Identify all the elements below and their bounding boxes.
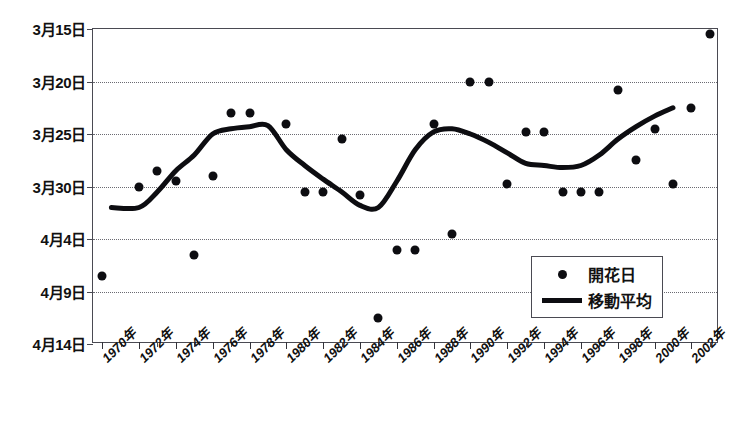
data-point <box>503 180 512 189</box>
data-point <box>135 182 144 191</box>
data-point <box>540 127 549 136</box>
data-point <box>153 166 162 175</box>
data-point <box>521 127 530 136</box>
data-point <box>484 77 493 86</box>
y-axis-tick-label: 4月14日 <box>0 333 86 354</box>
sakura-bloom-chart: 3月15日3月20日3月25日3月30日4月4日4月9日4月14日 開花日 移動… <box>0 0 734 432</box>
data-point <box>705 30 714 39</box>
data-point <box>650 124 659 133</box>
data-point <box>466 77 475 86</box>
legend-item-bloom-date: 開花日 <box>540 261 652 287</box>
data-point <box>208 172 217 181</box>
data-point <box>558 187 567 196</box>
data-point <box>668 180 677 189</box>
data-point <box>392 245 401 254</box>
legend-label-bloom-date: 開花日 <box>584 262 636 286</box>
data-point <box>374 313 383 322</box>
y-axis-tick-label: 3月30日 <box>0 175 86 196</box>
bloom-dot-icon <box>540 270 584 279</box>
y-axis-tick-label: 3月25日 <box>0 123 86 144</box>
data-point <box>282 119 291 128</box>
legend-label-moving-average: 移動平均 <box>584 288 652 312</box>
data-point <box>337 135 346 144</box>
data-point <box>98 271 107 280</box>
data-point <box>300 187 309 196</box>
y-axis-tick-label: 4月9日 <box>0 280 86 301</box>
data-point <box>576 187 585 196</box>
data-point <box>171 177 180 186</box>
plot-area: 開花日 移動平均 <box>92 28 718 343</box>
data-point <box>613 85 622 94</box>
legend-item-moving-average: 移動平均 <box>540 287 652 313</box>
y-axis-tick-label: 3月20日 <box>0 70 86 91</box>
line-swatch-icon <box>540 298 584 303</box>
moving-average-path <box>111 108 673 210</box>
data-point <box>687 103 696 112</box>
data-point <box>190 250 199 259</box>
data-point <box>429 119 438 128</box>
y-axis-tick-label: 4月4日 <box>0 228 86 249</box>
data-point <box>448 229 457 238</box>
data-point <box>595 187 604 196</box>
data-point <box>227 109 236 118</box>
data-point <box>411 245 420 254</box>
data-point <box>245 109 254 118</box>
y-axis-tick-label: 3月15日 <box>0 18 86 39</box>
legend: 開花日 移動平均 <box>531 256 663 318</box>
data-point <box>632 156 641 165</box>
y-axis-tick <box>87 344 93 345</box>
data-point <box>319 187 328 196</box>
data-point <box>355 190 364 199</box>
